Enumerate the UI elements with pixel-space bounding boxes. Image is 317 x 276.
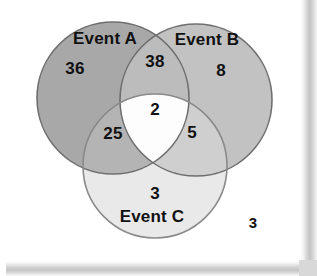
count-a-only: 36 <box>65 59 84 79</box>
label-event-c: Event C <box>120 207 185 227</box>
scan-edge-corner <box>299 260 317 276</box>
count-a-and-b: 38 <box>145 52 164 72</box>
label-event-a: Event A <box>73 29 137 49</box>
count-b-and-c: 5 <box>187 123 197 143</box>
count-outside-all: 3 <box>249 214 258 231</box>
label-event-b: Event B <box>175 30 240 50</box>
count-a-b-c: 2 <box>150 100 160 120</box>
venn-diagram-screenshot: Event A Event B Event C 36 8 3 38 25 5 2… <box>0 0 317 276</box>
count-b-only: 8 <box>216 61 226 81</box>
count-a-and-c: 25 <box>103 124 122 144</box>
scan-edge-bottom <box>6 261 317 276</box>
count-c-only: 3 <box>150 184 160 204</box>
scan-edge-right <box>300 0 317 262</box>
venn-diagram: Event A Event B Event C 36 8 3 38 25 5 2 <box>0 0 290 258</box>
